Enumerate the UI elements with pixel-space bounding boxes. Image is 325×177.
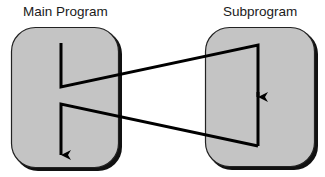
flow-diagram xyxy=(0,0,325,177)
main-program-box-body xyxy=(12,28,119,168)
subprogram-box xyxy=(206,28,319,171)
main-program-box xyxy=(12,28,123,172)
subprogram-box-body xyxy=(206,28,315,167)
